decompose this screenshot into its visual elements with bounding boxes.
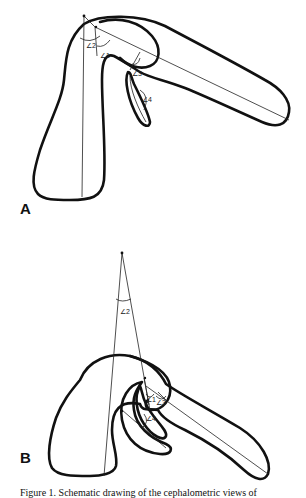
- panel-a-label: A: [20, 200, 31, 217]
- panel-b-angle-3-label: ∠3: [156, 399, 166, 406]
- panel-a-vertex-dot-2: [95, 26, 97, 28]
- panel-b-line-inner: [122, 410, 166, 448]
- panel-a-angle-3-label: ∠3: [132, 70, 142, 77]
- panel-a-drawing: ∠2 ∠1 ∠3 ∠4: [34, 15, 290, 200]
- panel-a-angle-2-arc: [80, 36, 100, 41]
- panel-b-angle-4-label: ∠4: [146, 415, 156, 422]
- panel-a-angle-1-label: ∠1: [100, 52, 110, 59]
- panel-a-angle-1-arc: [97, 40, 110, 46]
- panel-b-drawing: ∠2 ∠1 ∠3 ∠4: [49, 252, 269, 479]
- panel-a-angle-2-label: ∠2: [86, 42, 96, 49]
- panel-a-angle-4-label: ∠4: [142, 96, 152, 103]
- panel-b-finger-2: [137, 386, 167, 438]
- panel-b-vertex-dot-2: [144, 377, 146, 379]
- panel-a-main-outline: [34, 17, 290, 200]
- panel-a-vertex-dot: [83, 15, 86, 18]
- panel-b-vertex-dot: [121, 252, 124, 255]
- panel-b-label: B: [20, 449, 31, 466]
- panel-b-main-outline: [49, 355, 269, 479]
- panel-b-angle-2-label: ∠2: [120, 308, 130, 315]
- panel-b-angle-1-label: ∠1: [146, 396, 156, 403]
- figure-caption: Figure 1. Schematic drawing of the cepha…: [20, 487, 257, 498]
- panel-a-line-long: [82, 16, 84, 197]
- panel-a-line-vertex: [84, 16, 95, 27]
- panel-b-vertex-dot-3: [121, 410, 123, 412]
